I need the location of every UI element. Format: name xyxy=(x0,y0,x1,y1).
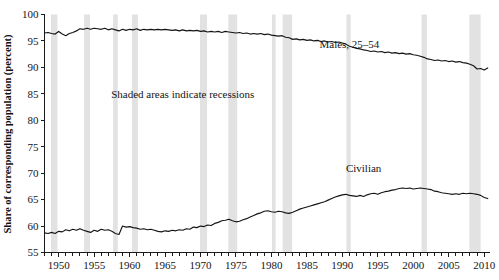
y-axis-tick-label: 85 xyxy=(28,88,40,100)
y-axis-title-group: Share of corresponding population (perce… xyxy=(2,34,14,233)
labor-force-participation-chart: 5560657075808590951001950195519601965197… xyxy=(0,0,499,280)
y-axis-tick-label: 55 xyxy=(28,246,40,258)
y-axis-tick-label: 75 xyxy=(28,141,40,153)
recession-band xyxy=(200,15,207,253)
x-axis-tick-label: 2005 xyxy=(438,259,461,271)
recession-band xyxy=(228,15,237,253)
recession-band xyxy=(422,15,427,253)
x-axis-tick-label: 1995 xyxy=(367,259,390,271)
recession-band xyxy=(469,15,480,253)
annotations-group: Males, 25–54CivilianShaded areas indicat… xyxy=(111,38,382,173)
y-axis-tick-label: 95 xyxy=(28,35,40,47)
x-axis-tick-label: 1975 xyxy=(225,259,248,271)
y-axis-title: Share of corresponding population (perce… xyxy=(2,34,14,233)
x-axis-tick-label: 1980 xyxy=(260,259,283,271)
chart-annotation: Shaded areas indicate recessions xyxy=(111,88,254,100)
x-axis-tick-label: 1970 xyxy=(190,259,213,271)
chart-annotation: Civilian xyxy=(346,162,382,174)
recession-band xyxy=(51,15,57,253)
x-axis-tick-label: 1965 xyxy=(154,259,177,271)
x-axis-tick-label: 1990 xyxy=(331,259,354,271)
series-line-males-25-54 xyxy=(45,28,488,70)
recession-band xyxy=(272,15,276,253)
chart-annotation: Males, 25–54 xyxy=(319,38,379,50)
recession-band xyxy=(84,15,90,253)
chart-figure: 5560657075808590951001950195519601965197… xyxy=(0,0,499,280)
y-axis-tick-label: 60 xyxy=(28,220,40,232)
recession-band xyxy=(113,15,118,253)
y-axis-tick-label: 65 xyxy=(28,193,40,205)
x-axis-tick-label: 2010 xyxy=(473,259,496,271)
y-axis-tick-label: 80 xyxy=(28,114,40,126)
recession-band xyxy=(132,15,138,253)
y-axis-tick-label: 70 xyxy=(28,167,40,179)
y-axis-tick-label: 100 xyxy=(22,8,39,20)
x-axis-tick-label: 1955 xyxy=(83,259,106,271)
x-axis-tick-label: 1985 xyxy=(296,259,319,271)
recession-band xyxy=(283,15,293,253)
x-axis-tick-label: 1960 xyxy=(119,259,142,271)
series-line-civilian xyxy=(45,188,488,235)
x-axis-tick-label: 2000 xyxy=(402,259,425,271)
x-axis-tick-label: 1950 xyxy=(48,259,71,271)
recession-bands-group xyxy=(51,15,481,253)
y-axis-tick-label: 90 xyxy=(28,61,40,73)
series-group xyxy=(45,28,488,234)
